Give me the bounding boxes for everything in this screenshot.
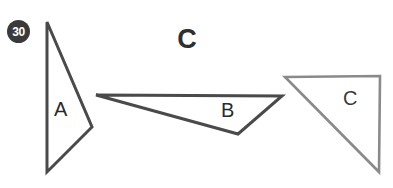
triangle-a-outline xyxy=(47,22,92,172)
triangle-b-label: B xyxy=(221,100,234,120)
triangle-a-label: A xyxy=(54,99,67,119)
figure-title: C xyxy=(172,26,202,53)
triangle-c-outline xyxy=(285,76,380,172)
problem-number-badge-text: 30 xyxy=(12,26,24,38)
triangle-c-label: C xyxy=(343,88,357,108)
problem-number-badge: 30 xyxy=(7,20,30,43)
figure-canvas: 30 C A B C xyxy=(0,0,393,188)
triangle-b-outline xyxy=(96,95,282,134)
